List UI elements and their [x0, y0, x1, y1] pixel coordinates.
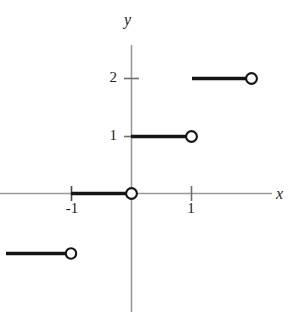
x-tick-label-neg-1: -1: [58, 201, 86, 216]
open-circle-0: [126, 188, 137, 199]
open-circle-neg-1: [66, 248, 76, 258]
y-axis-label: y: [124, 12, 131, 28]
open-circle-2: [246, 73, 257, 84]
y-tick-label-1: 1: [101, 128, 117, 143]
y-tick-label-2: 2: [101, 70, 117, 85]
open-circle-1: [186, 131, 197, 142]
step-function-figure: x y -1 1 1 2: [0, 0, 300, 312]
coordinate-plane: [0, 0, 300, 312]
x-tick-label-pos-1: 1: [178, 201, 204, 216]
x-axis-label: x: [276, 186, 283, 202]
